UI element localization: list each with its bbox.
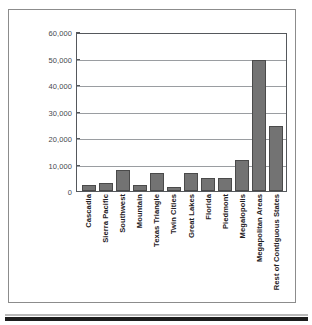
y-axis-tick-mark [76, 59, 80, 60]
y-axis-tick-mark [76, 32, 80, 33]
y-axis-tick-label: 10,000 [28, 161, 72, 170]
bar [184, 173, 198, 191]
x-axis-label-cell: Megapolitan Areas [252, 194, 266, 299]
x-axis-label-cell: Texas Triangle [149, 194, 163, 299]
y-axis-tick-label: 30,000 [28, 108, 72, 117]
bar-series [77, 34, 286, 191]
y-axis-tick-mark [76, 138, 80, 139]
y-axis-tick-label: 0 [28, 188, 72, 197]
page-edge-shadow [5, 314, 308, 316]
y-axis-tick-label: 60,000 [28, 29, 72, 38]
bar [218, 178, 232, 191]
x-axis-category-labels: CascadiaSierra PacificSouthwestMountainT… [76, 194, 287, 299]
x-axis-label-cell: Piedmont [218, 194, 232, 299]
y-axis-tick-mark [76, 112, 80, 113]
bar [82, 185, 96, 191]
y-axis-tick-label: 40,000 [28, 82, 72, 91]
x-axis-tick-label: Cascadia [83, 194, 92, 228]
bar [99, 183, 113, 191]
bar [116, 170, 130, 191]
bar [133, 185, 147, 191]
page-edge-rule [5, 317, 308, 321]
bar [252, 60, 266, 191]
x-axis-label-cell: Florida [201, 194, 215, 299]
bar [167, 187, 181, 191]
x-axis-tick-label: Megapolitan Areas [255, 194, 264, 262]
x-axis-label-cell: Twin Cities [166, 194, 180, 299]
x-axis-tick-label: Florida [203, 194, 212, 220]
bar [201, 178, 215, 191]
bar-chart: 010,00020,00030,00040,00050,00060,000 Ca… [0, 0, 312, 325]
bar [269, 126, 283, 191]
plot-area [76, 33, 287, 192]
x-axis-label-cell: Megalopolis [235, 194, 249, 299]
x-axis-tick-label: Piedmont [220, 194, 229, 229]
bar [150, 173, 164, 191]
x-axis-tick-label: Texas Triangle [152, 194, 161, 247]
x-axis-tick-label: Southwest [117, 194, 126, 233]
y-axis-tick-label: 50,000 [28, 55, 72, 64]
y-axis-tick-label: 20,000 [28, 135, 72, 144]
x-axis-tick-label: Great Lakes [186, 194, 195, 238]
bar [235, 160, 249, 191]
y-axis-tick-mark [76, 165, 80, 166]
x-axis-tick-label: Megalopolis [238, 194, 247, 238]
x-axis-label-cell: Cascadia [81, 194, 95, 299]
x-axis-label-cell: Great Lakes [184, 194, 198, 299]
x-axis-label-cell: Southwest [115, 194, 129, 299]
figure-container: 010,00020,00030,00040,00050,00060,000 Ca… [0, 0, 312, 325]
x-axis-tick-label: Sierra Pacific [100, 194, 109, 243]
x-axis-tick-label: Twin Cities [169, 194, 178, 234]
y-axis-tick-mark [76, 85, 80, 86]
x-axis-tick-label: Mountain [135, 194, 144, 228]
x-axis-tick-label: Rest of Contiguous States [272, 194, 281, 290]
x-axis-label-cell: Mountain [132, 194, 146, 299]
x-axis-label-cell: Sierra Pacific [98, 194, 112, 299]
y-axis: 010,00020,00030,00040,00050,00060,000 [26, 33, 72, 192]
x-axis-label-cell: Rest of Contiguous States [269, 194, 283, 299]
